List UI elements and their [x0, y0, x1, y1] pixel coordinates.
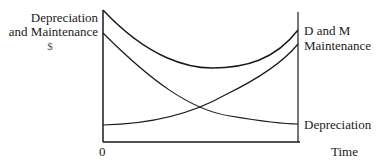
maintenance-label: Maintenance — [304, 39, 371, 53]
depreciation-curve — [103, 33, 298, 124]
d-and-m-curve — [103, 10, 298, 68]
origin-label: 0 — [99, 145, 106, 159]
d-and-m-label: D and M — [304, 24, 350, 38]
y-axis-label-line1: Depreciation — [4, 11, 98, 25]
x-axis-label: Time — [331, 145, 358, 159]
y-axis-label-line2: and Maintenance — [0, 25, 98, 39]
depreciation-label: Depreciation — [304, 118, 371, 132]
y-axis-label-unit: $ — [40, 39, 60, 53]
